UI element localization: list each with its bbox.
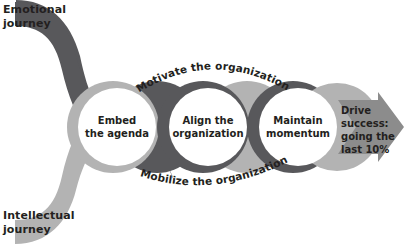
emotional-journey-label: Emotional journey [3, 3, 66, 30]
drive-success-label: Drive success: going the last 10% [341, 104, 417, 156]
stage-label-maintain: Maintain momentum [255, 114, 341, 140]
stage-label-embed: Embed the agenda [74, 114, 160, 140]
intellectual-journey-label: Intellectual journey [3, 209, 75, 236]
stage-label-align: Align the organization [165, 114, 251, 140]
